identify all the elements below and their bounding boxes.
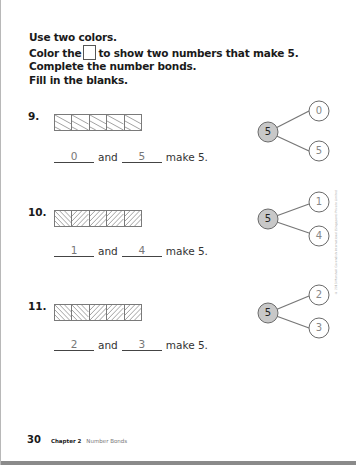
hatch-back-icon bbox=[125, 115, 141, 130]
problem-9-blank-first[interactable]: 0 bbox=[54, 150, 94, 163]
problem-9-number-bond: 5 0 5 bbox=[256, 95, 336, 165]
problem-10-blank-first[interactable]: 1 bbox=[54, 244, 94, 257]
page-footer: 30 Chapter 2 Number Bonds bbox=[27, 434, 127, 445]
bar-cell[interactable] bbox=[107, 115, 124, 130]
make-label: make 5. bbox=[166, 245, 208, 257]
instruction-line-2: Color theto show two numbers that make 5… bbox=[29, 45, 298, 61]
bar-cell[interactable] bbox=[55, 211, 72, 226]
hatch-back-icon bbox=[72, 305, 88, 320]
instruction-line-4: Fill in the blanks. bbox=[29, 74, 298, 88]
bar-cell[interactable] bbox=[90, 305, 107, 320]
bond-part-bottom[interactable]: 3 bbox=[309, 318, 329, 338]
bar-cell[interactable] bbox=[55, 115, 72, 130]
problem-10-blank-second[interactable]: 4 bbox=[122, 244, 162, 257]
bar-cell[interactable] bbox=[107, 305, 124, 320]
problem-11-blank-second[interactable]: 3 bbox=[122, 338, 162, 351]
problem-9-number: 9. bbox=[28, 110, 39, 122]
hatch-back-icon bbox=[107, 115, 123, 130]
bar-cell[interactable] bbox=[107, 211, 124, 226]
problem-10-answer: 1 and 4 make 5. bbox=[54, 244, 208, 257]
hatch-back-icon bbox=[72, 115, 88, 130]
hatch-forward-icon bbox=[90, 211, 106, 226]
problem-9-blank-second[interactable]: 5 bbox=[122, 150, 162, 163]
and-label: and bbox=[98, 339, 118, 351]
problem-10-number: 10. bbox=[28, 206, 47, 218]
hatch-forward-icon bbox=[90, 305, 106, 320]
make-label: make 5. bbox=[166, 151, 208, 163]
copyright-notice: © 2013 Marshall Cavendish International … bbox=[334, 180, 338, 295]
problem-11-blank-first[interactable]: 2 bbox=[54, 338, 94, 351]
bond-part-top[interactable]: 0 bbox=[309, 101, 329, 121]
bar-cell[interactable] bbox=[125, 115, 141, 130]
bar-cell[interactable] bbox=[90, 211, 107, 226]
hatch-back-icon bbox=[90, 115, 106, 130]
bond-whole: 5 bbox=[258, 209, 278, 229]
bond-whole: 5 bbox=[258, 303, 278, 323]
instruction-line-3: Complete the number bonds. bbox=[29, 60, 298, 74]
bar-cell[interactable] bbox=[72, 115, 89, 130]
hatch-back-icon bbox=[55, 211, 71, 226]
chapter-label: Chapter 2 bbox=[51, 438, 81, 444]
problem-9-bar-model bbox=[54, 114, 142, 131]
bar-cell[interactable] bbox=[125, 211, 141, 226]
hatch-forward-icon bbox=[107, 305, 123, 320]
problem-11-answer: 2 and 3 make 5. bbox=[54, 338, 208, 351]
bond-part-bottom[interactable]: 4 bbox=[309, 226, 329, 246]
instructions: Use two colors. Color theto show two num… bbox=[29, 31, 298, 87]
and-label: and bbox=[98, 151, 118, 163]
hatch-back-icon bbox=[55, 305, 71, 320]
problem-11-number-bond: 5 2 3 bbox=[256, 278, 336, 348]
hatch-forward-icon bbox=[72, 211, 88, 226]
problem-10-bar-model bbox=[54, 210, 142, 227]
problem-10-number-bond: 5 1 4 bbox=[256, 168, 336, 238]
problem-9-answer: 0 and 5 make 5. bbox=[54, 150, 208, 163]
hatch-forward-icon bbox=[107, 211, 123, 226]
bond-part-top[interactable]: 1 bbox=[309, 192, 329, 212]
bond-part-bottom[interactable]: 5 bbox=[309, 141, 329, 161]
instruction-line-2-after: to show two numbers that make 5. bbox=[98, 47, 298, 59]
bond-part-top[interactable]: 2 bbox=[309, 285, 329, 305]
and-label: and bbox=[98, 245, 118, 257]
hatch-back-icon bbox=[55, 115, 71, 130]
instruction-line-2-before: Color the bbox=[29, 47, 81, 59]
bar-cell[interactable] bbox=[125, 305, 141, 320]
hatch-forward-icon bbox=[125, 305, 141, 320]
bar-cell[interactable] bbox=[72, 211, 89, 226]
bond-whole: 5 bbox=[258, 122, 278, 142]
instruction-line-1: Use two colors. bbox=[29, 31, 298, 45]
page-number: 30 bbox=[27, 434, 41, 445]
bar-cell[interactable] bbox=[55, 305, 72, 320]
bar-cell[interactable] bbox=[72, 305, 89, 320]
make-label: make 5. bbox=[166, 339, 208, 351]
page-bottom-edge bbox=[1, 461, 356, 465]
color-box-icon bbox=[83, 45, 96, 60]
hatch-forward-icon bbox=[125, 211, 141, 226]
problem-11-bar-model bbox=[54, 304, 142, 321]
chapter-title: Number Bonds bbox=[86, 438, 127, 444]
bar-cell[interactable] bbox=[90, 115, 107, 130]
problem-11-number: 11. bbox=[28, 300, 47, 312]
